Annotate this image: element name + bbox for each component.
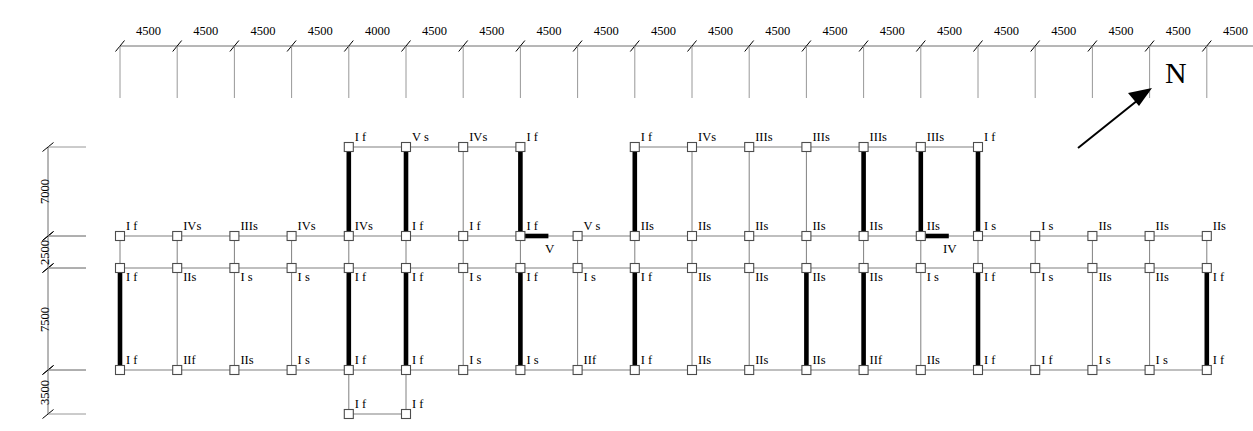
member-label-axis-c-8: I s — [526, 354, 538, 367]
member-label-axis-c-7: I s — [469, 354, 481, 367]
member-label-axis-c-13: IIs — [812, 354, 825, 367]
member-label-annex-1: I f — [355, 398, 366, 411]
member-label-upper-left-3: IVs — [469, 131, 487, 144]
column-node — [974, 143, 983, 152]
member-label-axis-b-11: IIs — [698, 271, 711, 284]
member-label-axis-b-3: I s — [240, 271, 252, 284]
dimension-label-16: 4500 — [994, 24, 1019, 39]
member-label-upper-left-1: I f — [355, 131, 366, 144]
column-node — [516, 264, 525, 273]
member-label-axis-a-15: IIs — [927, 220, 940, 233]
dimension-label-14: 4500 — [880, 24, 905, 39]
member-label-axis-a-10: IIs — [641, 220, 654, 233]
column-node — [859, 366, 868, 375]
column-node — [287, 366, 296, 375]
north-label: N — [1165, 56, 1187, 90]
member-label-upper-right-1: I f — [641, 131, 652, 144]
column-node — [459, 264, 468, 273]
member-label-axis-a-12: IIs — [755, 220, 768, 233]
member-label-axis-c-9: IIf — [584, 354, 597, 367]
dimension-label-18: 4500 — [1109, 24, 1134, 39]
member-label-axis-c-3: IIs — [240, 354, 253, 367]
member-label-axis-c-19: I s — [1156, 354, 1168, 367]
member-label-axis-b-10: I f — [641, 271, 652, 284]
member-label-axis-a-1: I f — [126, 220, 137, 233]
member-label-axis-b-5: I f — [355, 271, 366, 284]
column-node — [630, 232, 639, 241]
dimension-label-3: 4500 — [251, 24, 276, 39]
member-label-axis-c-12: IIs — [755, 354, 768, 367]
member-label-axis-c-1: I f — [126, 354, 137, 367]
column-node — [230, 232, 239, 241]
dimension-label-17: 4500 — [1051, 24, 1076, 39]
member-label-axis-a-20: IIs — [1213, 220, 1226, 233]
member-label-axis-c-4: I s — [298, 354, 310, 367]
column-node — [344, 366, 353, 375]
dimension-label-1: 4500 — [136, 24, 161, 39]
member-label-axis-a-13: IIs — [812, 220, 825, 233]
dimension-label-15: 4500 — [937, 24, 962, 39]
member-label-axis-c-2: IIf — [183, 354, 196, 367]
column-node — [344, 410, 353, 419]
member-label-axis-b-17: I s — [1041, 271, 1053, 284]
member-label-axis-b-15: I s — [927, 271, 939, 284]
member-label-axis-c-17: I f — [1041, 354, 1052, 367]
member-label-axis-a-11: IIs — [698, 220, 711, 233]
column-node — [230, 264, 239, 273]
dimension-label-8: 4500 — [537, 24, 562, 39]
column-node — [1088, 366, 1097, 375]
column-node — [630, 143, 639, 152]
column-node — [688, 264, 697, 273]
column-node — [402, 366, 411, 375]
member-label-axis-c-15: IIs — [927, 354, 940, 367]
column-node — [287, 264, 296, 273]
member-label-axis-c-14: IIf — [870, 354, 883, 367]
column-node — [630, 264, 639, 273]
member-label-axis-c-6: I f — [412, 354, 423, 367]
column-node — [173, 264, 182, 273]
member-label-upper-left-2: V s — [412, 131, 429, 144]
column-node — [974, 264, 983, 273]
column-node — [459, 143, 468, 152]
member-label-upper-right-6: IIIs — [927, 131, 944, 144]
member-label-axis-a-7: I f — [469, 220, 480, 233]
column-node — [916, 264, 925, 273]
column-node — [916, 232, 925, 241]
member-label-axis-a-6: I f — [412, 220, 423, 233]
member-label-axis-c-5: I f — [355, 354, 366, 367]
dimension-label-10: 4500 — [651, 24, 676, 39]
vertical-dimension-label-1: 7000 — [38, 179, 53, 204]
member-label-upper-right-4: IIIs — [812, 131, 829, 144]
member-label-axis-c-11: IIs — [698, 354, 711, 367]
member-label-axis-a-17: I s — [1041, 220, 1053, 233]
member-label-axis-b-20: I f — [1213, 271, 1224, 284]
dimension-label-9: 4500 — [594, 24, 619, 39]
column-node — [516, 232, 525, 241]
column-node — [630, 366, 639, 375]
column-node — [344, 143, 353, 152]
column-node — [116, 264, 125, 273]
column-node — [688, 232, 697, 241]
column-node — [859, 143, 868, 152]
dimension-label-19: 4500 — [1166, 24, 1191, 39]
column-node — [1202, 264, 1211, 273]
member-label-axis-b-13: IIs — [812, 271, 825, 284]
vertical-dimension-label-2: 2500 — [38, 240, 53, 265]
dimension-label-7: 4500 — [479, 24, 504, 39]
column-node — [1145, 232, 1154, 241]
column-node — [1202, 366, 1211, 375]
dimension-label-2: 4500 — [193, 24, 218, 39]
dimension-label-5: 4000 — [365, 24, 390, 39]
member-label-axis-a-5: IVs — [355, 220, 373, 233]
column-node — [1031, 264, 1040, 273]
column-node — [1088, 264, 1097, 273]
column-node — [916, 143, 925, 152]
column-node — [173, 232, 182, 241]
column-node — [974, 232, 983, 241]
member-label-axis-b-7: I s — [469, 271, 481, 284]
dimension-label-4: 4500 — [308, 24, 333, 39]
column-node — [344, 232, 353, 241]
column-node — [802, 232, 811, 241]
member-label-upper-right-7: I f — [984, 131, 995, 144]
member-label-axis-a-3: IIIs — [240, 220, 257, 233]
